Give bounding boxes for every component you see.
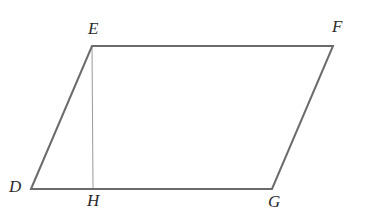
vertex-label-e: E — [88, 20, 98, 37]
vertex-label-d: D — [9, 178, 21, 195]
vertex-label-g: G — [268, 193, 280, 210]
vertex-label-h: H — [87, 192, 99, 209]
vertex-label-f: F — [332, 18, 342, 35]
parallelogram-diagram-svg — [0, 0, 365, 211]
geometry-figure: E F D H G — [0, 0, 365, 211]
diagram-background — [0, 0, 365, 211]
